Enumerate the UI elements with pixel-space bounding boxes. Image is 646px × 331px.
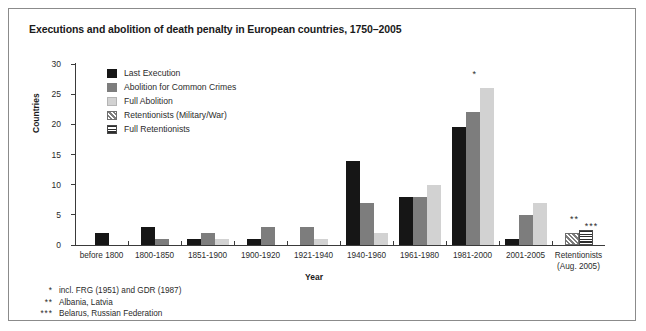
legend-item-label: Last Execution — [124, 68, 180, 78]
bar-group: 2001-2005 — [499, 63, 552, 245]
bar — [399, 197, 413, 245]
bar — [480, 88, 494, 245]
x-axis-tick — [340, 241, 341, 245]
footnote-marker: ** — [31, 298, 53, 307]
legend-swatch-icon — [107, 111, 117, 120]
bar — [374, 233, 388, 245]
y-axis-tick-label: 30 — [52, 59, 61, 69]
x-axis-tick — [393, 241, 394, 245]
bar-group: 1940-1960 — [340, 63, 393, 245]
x-axis-tick-label: Retentionists (Aug. 2005) — [552, 251, 605, 272]
bar — [519, 215, 533, 245]
bar — [215, 239, 229, 245]
x-axis-tick-label: 1900-1920 — [234, 251, 287, 262]
y-axis-tick-label: 5 — [56, 210, 61, 220]
bar-annotation: *** — [585, 221, 599, 231]
legend-swatch-icon — [107, 125, 117, 134]
chart-legend: Last ExecutionAbolition for Common Crime… — [107, 66, 236, 136]
bar — [452, 127, 466, 245]
legend-item: Full Retentionists — [107, 122, 236, 136]
x-axis-tick — [287, 241, 288, 245]
bar — [247, 239, 261, 245]
x-axis-tick-label: 2001-2005 — [499, 251, 552, 262]
x-axis-tick-label: 1940-1960 — [340, 251, 393, 262]
x-axis-tick-label: 1961-1980 — [393, 251, 446, 262]
bar — [314, 239, 328, 245]
bar-annotation: * — [473, 69, 478, 79]
bar — [413, 197, 427, 245]
bar-group: 1981-2000 — [446, 63, 499, 245]
y-axis-tick-label: 20 — [52, 119, 61, 129]
x-axis-line — [75, 245, 605, 246]
bar-annotation: ** — [570, 214, 579, 224]
legend-item-label: Retentionists (Military/War) — [124, 110, 227, 120]
chart-title: Executions and abolition of death penalt… — [29, 23, 401, 35]
bar — [466, 112, 480, 245]
y-axis-tick-label: 10 — [52, 180, 61, 190]
footnote-text: incl. FRG (1951) and GDR (1987) — [59, 286, 181, 295]
bar — [95, 233, 109, 245]
bar — [565, 233, 579, 245]
bar-group: 1900-1920 — [234, 63, 287, 245]
y-axis-tick-label: 15 — [52, 150, 61, 160]
chart-figure: Executions and abolition of death penalt… — [8, 8, 636, 321]
x-axis-tick — [499, 241, 500, 245]
x-axis-tick-label: 1800-1850 — [128, 251, 181, 262]
bar — [579, 230, 593, 245]
x-axis-tick-label: before 1800 — [75, 251, 128, 262]
footnote-marker: * — [31, 286, 53, 295]
footnote-marker: *** — [31, 309, 53, 318]
legend-swatch-icon — [107, 97, 117, 106]
footnote-text: Albania, Latvia — [59, 298, 113, 307]
bar-group: 1961-1980 — [393, 63, 446, 245]
footnotes: *incl. FRG (1951) and GDR (1987)**Albani… — [31, 286, 181, 321]
legend-item: Retentionists (Military/War) — [107, 108, 236, 122]
bar — [201, 233, 215, 245]
x-axis-tick — [234, 241, 235, 245]
legend-item-label: Full Abolition — [124, 96, 173, 106]
legend-item: Last Execution — [107, 66, 236, 80]
bar — [533, 203, 547, 245]
bar — [346, 161, 360, 245]
x-axis-tick — [128, 241, 129, 245]
bar — [141, 227, 155, 245]
legend-item-label: Abolition for Common Crimes — [124, 82, 236, 92]
x-axis-tick-label: 1851-1900 — [181, 251, 234, 262]
footnote: **Albania, Latvia — [31, 298, 181, 310]
legend-item: Full Abolition — [107, 94, 236, 108]
y-axis-title: Countries — [31, 93, 41, 133]
y-axis-tick-label: 0 — [56, 240, 61, 250]
legend-item: Abolition for Common Crimes — [107, 80, 236, 94]
x-axis-tick — [446, 241, 447, 245]
bar — [300, 227, 314, 245]
x-axis-tick-label: 1981-2000 — [446, 251, 499, 262]
x-axis-tick-label: 1921-1940 — [287, 251, 340, 262]
x-axis-title: Year — [305, 272, 323, 282]
y-axis-tick-label: 25 — [52, 89, 61, 99]
footnote: ***Belarus, Russian Federation — [31, 309, 181, 321]
x-axis-tick — [552, 241, 553, 245]
bar — [505, 239, 519, 245]
footnote-text: Belarus, Russian Federation — [59, 309, 162, 318]
legend-swatch-icon — [107, 83, 117, 92]
bar — [360, 203, 374, 245]
bar-group: 1921-1940 — [287, 63, 340, 245]
legend-item-label: Full Retentionists — [124, 124, 190, 134]
legend-swatch-icon — [107, 69, 117, 78]
x-axis-tick — [181, 241, 182, 245]
footnote: *incl. FRG (1951) and GDR (1987) — [31, 286, 181, 298]
bar — [187, 239, 201, 245]
bar — [427, 185, 441, 245]
bar — [261, 227, 275, 245]
bar — [155, 239, 169, 245]
